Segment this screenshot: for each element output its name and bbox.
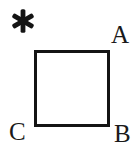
geometry-figure: A B C xyxy=(0,0,138,146)
asterisk-icon xyxy=(10,6,36,40)
vertex-label-a: A xyxy=(111,22,129,47)
vertex-label-c: C xyxy=(9,119,26,144)
vertex-label-b: B xyxy=(114,121,131,146)
square-shape xyxy=(34,50,110,127)
